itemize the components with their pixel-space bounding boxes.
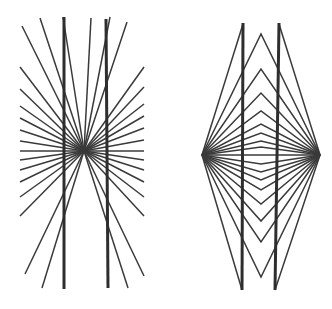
parallel-bar bbox=[106, 19, 108, 288]
parallel-bar bbox=[242, 23, 243, 290]
illusion-figure bbox=[0, 0, 332, 309]
illusion-canvas bbox=[0, 0, 332, 309]
